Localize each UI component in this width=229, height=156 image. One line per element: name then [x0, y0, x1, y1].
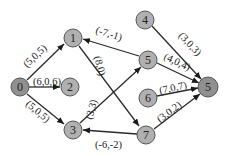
node-7-label: 7 — [143, 128, 149, 142]
edge-label-5-5: (4,0,4) — [162, 51, 193, 74]
node-3: 3 — [64, 121, 82, 139]
edge-label-4-5: (3,0,3) — [176, 30, 204, 59]
edge-label-7-3: (-6,-2) — [95, 139, 123, 151]
graph-diagram: (5,0,5) (6,0,6) (5,0,5) (-7,-1) (8,0) (3… — [0, 0, 229, 156]
edge-label-3-5: (3,3) — [83, 98, 100, 121]
node-6: 6 — [139, 89, 157, 107]
edge-label-0-2: (6,0,6) — [33, 76, 61, 88]
edge-7-to-3 — [83, 130, 137, 134]
node-0: 0 — [11, 78, 29, 96]
node-1-label: 1 — [70, 31, 76, 45]
edge-label-0-1: (5,0,5) — [21, 42, 50, 70]
edge-label-6-5: (7,0,7) — [158, 79, 188, 97]
node-5-sink: 5 — [198, 77, 218, 97]
edge-label-5-1: (-7,-1) — [94, 24, 124, 44]
node-0-label: 0 — [17, 80, 23, 94]
node-2: 2 — [61, 78, 79, 96]
node-6-label: 6 — [145, 91, 151, 105]
node-1: 1 — [64, 29, 82, 47]
node-2-label: 2 — [67, 80, 73, 94]
node-5-middle-label: 5 — [145, 53, 151, 67]
edge-5-to-1 — [83, 39, 139, 56]
edge-label-7-5: (3,0,2) — [155, 99, 185, 126]
node-5-sink-label: 5 — [205, 80, 211, 94]
node-4: 4 — [136, 11, 154, 29]
node-3-label: 3 — [70, 123, 76, 137]
edges: (5,0,5) (6,0,6) (5,0,5) (-7,-1) (8,0) (3… — [21, 24, 204, 151]
node-4-label: 4 — [142, 13, 148, 27]
node-7: 7 — [137, 126, 155, 144]
node-5-middle: 5 — [139, 51, 157, 69]
